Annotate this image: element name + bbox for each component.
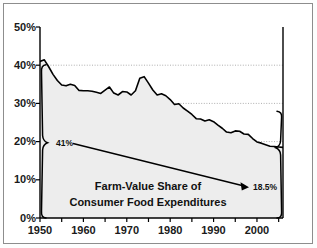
chart-figure: 0% 10% 20% 30% 40% 50% 1950 1960 1970 19…	[0, 0, 317, 248]
farm-value-share-line-chart: 0% 10% 20% 30% 40% 50% 1950 1960 1970 19…	[0, 0, 317, 248]
y-tick-label-30: 30%	[14, 97, 36, 109]
y-axis-tick-labels: 0% 10% 20% 30% 40% 50%	[14, 21, 36, 224]
annotation-start-value: 41%	[56, 138, 73, 148]
chart-title-line1: Farm-Value Share of	[95, 180, 202, 192]
annotation-end-value: 18.5%	[253, 182, 278, 192]
x-tick-label-1980: 1980	[158, 224, 182, 236]
y-tick-label-40: 40%	[14, 59, 36, 71]
x-tick-label-1960: 1960	[71, 224, 95, 236]
y-tick-label-0: 0%	[20, 212, 36, 224]
y-tick-label-20: 20%	[14, 135, 36, 147]
x-tick-label-1950: 1950	[28, 224, 52, 236]
y-tick-label-10: 10%	[14, 173, 36, 185]
x-tick-label-1970: 1970	[115, 224, 139, 236]
x-axis-tick-labels: 1950 1960 1970 1980 1990 2000	[28, 224, 269, 236]
x-tick-label-1990: 1990	[201, 224, 225, 236]
y-tick-label-50: 50%	[14, 21, 36, 33]
x-tick-label-2000: 2000	[245, 224, 269, 236]
chart-title-line2: Consumer Food Expenditures	[69, 196, 226, 208]
